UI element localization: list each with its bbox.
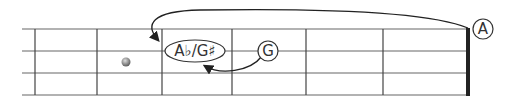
nut <box>466 28 470 96</box>
fretboard-diagram: A♭/G♯ G A <box>0 0 515 102</box>
note-open-a: A <box>473 19 493 39</box>
note-open-a-label: A <box>478 20 489 38</box>
inlay-dot <box>122 58 131 67</box>
note-g: G <box>258 41 278 61</box>
note-g-label: G <box>262 42 274 60</box>
note-target: A♭/G♯ <box>165 40 225 62</box>
arrow-a-to-target <box>152 10 468 40</box>
frets <box>35 29 383 95</box>
note-target-label: A♭/G♯ <box>174 42 215 60</box>
strings <box>22 29 470 95</box>
